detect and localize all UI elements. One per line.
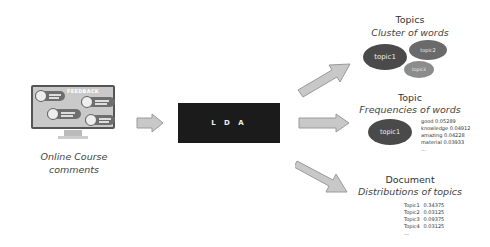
caption-line-1: Online Course — [30, 150, 118, 163]
arrow-right-icon — [298, 113, 350, 133]
cluster-label: topic1 — [374, 53, 396, 61]
lda-process-box: L D A — [178, 103, 280, 143]
topic-distribution-more: ... — [404, 230, 444, 237]
avatar-icon — [35, 90, 47, 102]
topic1-ellipse: topic1 — [368, 119, 412, 145]
arrow-up-right-icon — [296, 58, 352, 98]
document-heading: Document — [360, 174, 460, 185]
feedback-title: FEEDBACK — [67, 88, 99, 94]
topic-heading: Topic — [360, 92, 460, 103]
word-frequency-row: good 0.05289 — [421, 118, 470, 125]
topic-subheading: Frequencies of words — [345, 104, 475, 115]
online-course-comments-illustration: FEEDBACK — [28, 83, 118, 141]
avatar-icon — [81, 96, 93, 108]
word-frequency-row: material 0.03933 — [421, 139, 470, 146]
avatar-icon — [85, 114, 97, 126]
comment-bubble — [81, 97, 115, 107]
comment-bubble — [35, 91, 65, 101]
topic-distribution-row: Topic3 0.09375 — [404, 216, 444, 223]
word-frequency-row: amazing 0.04228 — [421, 132, 470, 139]
document-subheading: Distributions of topics — [345, 186, 475, 197]
topics-subheading: Cluster of words — [350, 27, 470, 38]
topic-distribution-row: Topic4 0.03125 — [404, 223, 444, 230]
cluster-label: topic3 — [412, 67, 426, 72]
word-frequency-list: good 0.05289 knowledge 0.04912 amazing 0… — [421, 118, 470, 153]
avatar-icon — [47, 108, 59, 120]
input-caption: Online Course comments — [30, 150, 118, 176]
topic1-cluster: topic1 — [363, 44, 407, 70]
topics-heading: Topics — [360, 14, 460, 25]
comment-bubble — [47, 109, 81, 119]
ellipse-label: topic1 — [380, 128, 400, 136]
word-frequency-more: ... — [421, 146, 470, 153]
arrow-right-icon — [136, 113, 164, 133]
cluster-label: topic2 — [420, 47, 436, 53]
caption-line-2: comments — [30, 163, 118, 176]
monitor-screen: FEEDBACK — [31, 85, 115, 129]
topic3-cluster: topic3 — [404, 61, 434, 78]
topic-distribution-row: Topic2 0.03125 — [404, 209, 444, 216]
topic-distribution-row: Topic1 0.34375 — [404, 202, 444, 209]
topic2-cluster: topic2 — [409, 40, 447, 60]
monitor-base — [58, 136, 88, 139]
topic-distribution-list: Topic1 0.34375 Topic2 0.03125 Topic3 0.0… — [404, 202, 444, 237]
lda-label: L D A — [211, 119, 247, 127]
comment-bubble — [85, 115, 115, 125]
word-frequency-row: knowledge 0.04912 — [421, 125, 470, 132]
